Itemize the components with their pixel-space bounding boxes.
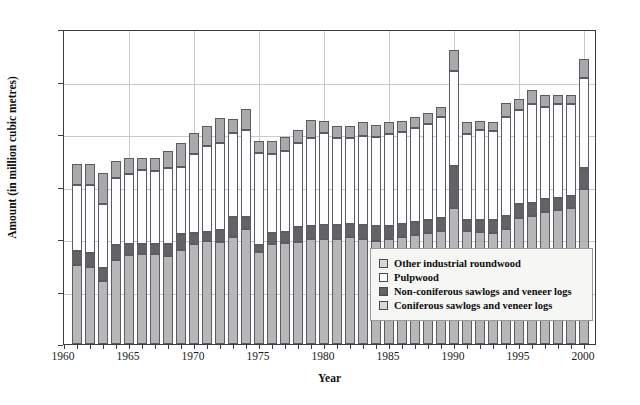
- bar-segment-pulpwood: [189, 154, 198, 233]
- bar-segment-other-industrial-roundwood: [72, 164, 81, 185]
- bar-segment-non-coniferous: [410, 222, 419, 235]
- bar-segment-pulpwood: [501, 117, 510, 216]
- bar-segment-pulpwood: [579, 78, 588, 167]
- bar-segment-non-coniferous: [319, 225, 328, 239]
- x-tick-mark: [402, 345, 403, 349]
- bar-segment-pulpwood: [436, 117, 445, 218]
- bar-segment-other-industrial-roundwood: [462, 122, 471, 134]
- x-tick-mark: [558, 345, 559, 349]
- bar-1982: [345, 126, 354, 344]
- bar-segment-other-industrial-roundwood: [319, 121, 328, 133]
- bar-segment-other-industrial-roundwood: [488, 122, 497, 130]
- x-tick-mark: [116, 345, 117, 349]
- bar-segment-pulpwood: [267, 154, 276, 233]
- x-tick-mark: [220, 345, 221, 349]
- x-tick-mark: [155, 345, 156, 349]
- bar-segment-non-coniferous: [501, 216, 510, 229]
- bar-segment-coniferous: [228, 237, 237, 344]
- bar-segment-other-industrial-roundwood: [358, 122, 367, 136]
- bar-segment-pulpwood: [488, 131, 497, 220]
- x-tick-label: 1960: [52, 350, 75, 362]
- bar-segment-non-coniferous: [488, 220, 497, 233]
- bar-segment-other-industrial-roundwood: [176, 143, 185, 166]
- bar-1970: [189, 133, 198, 344]
- bar-segment-coniferous: [111, 260, 120, 344]
- bar-segment-pulpwood: [319, 133, 328, 225]
- stacked-bar-chart: Amount (in million cubic metres) 0501001…: [0, 0, 640, 405]
- x-tick-mark: [506, 345, 507, 349]
- bar-segment-other-industrial-roundwood: [189, 133, 198, 154]
- bar-segment-pulpwood: [475, 130, 484, 220]
- bar-segment-pulpwood: [241, 130, 250, 217]
- bar-segment-non-coniferous: [527, 203, 536, 216]
- x-tick-label: 2000: [572, 350, 595, 362]
- bar-segment-non-coniferous: [566, 196, 575, 208]
- bar-segment-other-industrial-roundwood: [241, 109, 250, 130]
- bar-1976: [267, 141, 276, 344]
- bar-segment-other-industrial-roundwood: [410, 117, 419, 128]
- bar-segment-other-industrial-roundwood: [111, 161, 120, 178]
- x-tick-mark: [207, 345, 208, 349]
- bar-segment-non-coniferous: [449, 166, 458, 208]
- bar-segment-non-coniferous: [267, 233, 276, 245]
- bar-segment-coniferous: [124, 255, 133, 344]
- x-tick-mark: [571, 345, 572, 349]
- bar-segment-coniferous: [176, 250, 185, 345]
- x-tick-mark: [337, 345, 338, 349]
- bar-1983: [358, 122, 367, 344]
- x-tick-mark: [441, 345, 442, 349]
- bar-1972: [215, 118, 224, 344]
- bar-segment-non-coniferous: [306, 226, 315, 239]
- x-tick-mark: [376, 345, 377, 349]
- bar-segment-coniferous: [189, 244, 198, 344]
- legend-swatch-pulpwood-icon: [379, 273, 388, 282]
- bar-segment-other-industrial-roundwood: [163, 151, 172, 168]
- bar-segment-pulpwood: [306, 138, 315, 226]
- bar-segment-pulpwood: [280, 151, 289, 232]
- bar-segment-non-coniferous: [332, 225, 341, 239]
- x-tick-label: 1970: [182, 350, 205, 362]
- x-tick-mark: [103, 345, 104, 349]
- bar-segment-non-coniferous: [215, 230, 224, 243]
- x-axis-title: Year: [63, 372, 596, 384]
- bar-segment-coniferous: [163, 256, 172, 344]
- bar-segment-coniferous: [85, 267, 94, 344]
- bar-segment-pulpwood: [345, 138, 354, 224]
- x-tick-mark: [480, 345, 481, 349]
- bar-segment-non-coniferous: [280, 232, 289, 244]
- bar-segment-other-industrial-roundwood: [254, 141, 263, 153]
- x-tick-mark: [311, 345, 312, 349]
- x-tick-mark: [272, 345, 273, 349]
- bar-segment-non-coniferous: [202, 232, 211, 241]
- x-tick-mark: [467, 345, 468, 349]
- bar-segment-other-industrial-roundwood: [228, 119, 237, 133]
- x-tick-mark: [194, 344, 195, 349]
- legend-item-other-industrial-roundwood: Other industrial roundwood: [379, 258, 586, 269]
- bar-segment-coniferous: [293, 242, 302, 344]
- x-tick-mark: [129, 344, 130, 349]
- bar-segment-pulpwood: [566, 104, 575, 196]
- bar-segment-non-coniferous: [436, 218, 445, 231]
- x-tick-mark: [519, 344, 520, 349]
- bar-segment-non-coniferous: [72, 251, 81, 266]
- bar-segment-coniferous: [254, 252, 263, 344]
- bar-segment-other-industrial-roundwood: [202, 126, 211, 146]
- bar-segment-pulpwood: [137, 170, 146, 245]
- bar-1979: [306, 120, 315, 344]
- bar-segment-other-industrial-roundwood: [436, 107, 445, 118]
- x-tick-label: 1975: [247, 350, 270, 362]
- x-tick-mark: [389, 344, 390, 349]
- x-tick-label: 1965: [117, 350, 140, 362]
- x-tick-label: 1985: [377, 350, 400, 362]
- bar-1966: [137, 158, 146, 344]
- x-tick-label: 1990: [442, 350, 465, 362]
- bar-segment-non-coniferous: [150, 244, 159, 253]
- x-tick-mark: [285, 345, 286, 349]
- bar-segment-non-coniferous: [371, 226, 380, 241]
- bar-segment-other-industrial-roundwood: [475, 121, 484, 129]
- bar-segment-non-coniferous: [384, 226, 393, 239]
- bar-segment-pulpwood: [228, 133, 237, 217]
- bar-segment-pulpwood: [449, 71, 458, 166]
- bar-segment-non-coniferous: [423, 220, 432, 233]
- bar-segment-other-industrial-roundwood: [215, 118, 224, 143]
